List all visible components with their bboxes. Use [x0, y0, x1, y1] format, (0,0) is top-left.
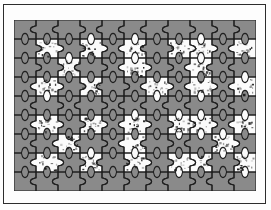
puzzle-piece-white — [30, 115, 63, 134]
puzzle-piece-white — [80, 77, 102, 96]
puzzle-piece-white — [140, 77, 173, 102]
puzzle-piece-white — [30, 153, 63, 172]
puzzle-piece-outline — [96, 20, 124, 39]
puzzle-piece-outline — [14, 128, 36, 158]
puzzle-piece-white — [118, 109, 151, 134]
puzzle-piece-outline — [124, 172, 152, 191]
figure-canvas — [0, 0, 271, 210]
puzzle-piece-outline — [30, 20, 58, 39]
puzzle-piece-outline — [14, 20, 36, 39]
puzzle-svg — [14, 20, 256, 191]
puzzle-piece-outline — [234, 20, 256, 39]
puzzle-piece-outline — [162, 20, 195, 39]
puzzle-piece-outline — [74, 96, 107, 115]
puzzle-piece-white — [30, 77, 63, 102]
puzzle-piece-outline — [190, 172, 212, 191]
puzzle-piece-white — [118, 52, 151, 77]
puzzle-piece-outline — [80, 172, 108, 191]
puzzle-piece-outline — [30, 172, 58, 191]
puzzle-piece-white — [184, 77, 217, 102]
puzzle-piece-white — [234, 147, 256, 177]
puzzle-piece-outline — [58, 96, 80, 115]
puzzle-grid — [14, 20, 256, 191]
puzzle-piece-outline — [52, 172, 85, 191]
